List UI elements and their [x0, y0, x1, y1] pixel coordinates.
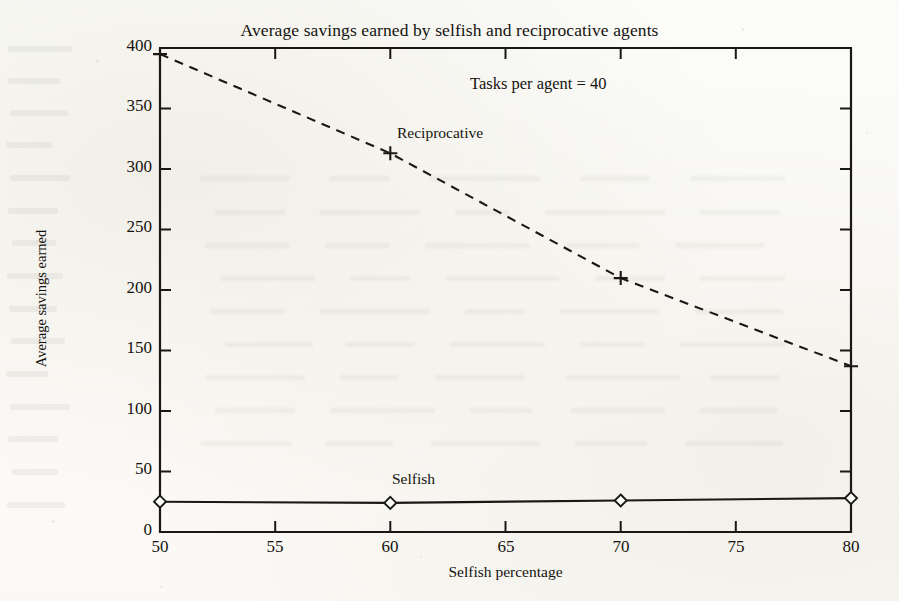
plot-canvas: [0, 0, 899, 601]
plot-frame: [160, 48, 851, 532]
series-selfish-markers: [154, 492, 857, 509]
chart-figure: Average savings earned by selfish and re…: [0, 0, 899, 601]
series-reciprocative-markers: [153, 47, 858, 373]
x-axis-ticks-top: [160, 48, 851, 59]
y-axis-ticks-right: [840, 48, 851, 532]
series-selfish-line: [160, 498, 851, 503]
x-axis-ticks: [160, 521, 851, 532]
y-axis-ticks: [160, 48, 171, 532]
series-reciprocative-line: [160, 54, 851, 366]
